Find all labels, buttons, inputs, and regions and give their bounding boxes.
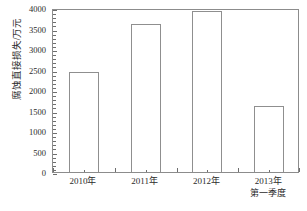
y-axis-minor-tick bbox=[53, 137, 56, 138]
y-axis-minor-tick bbox=[53, 39, 56, 40]
bar bbox=[69, 72, 99, 172]
bar bbox=[192, 11, 222, 172]
y-axis-minor-tick bbox=[53, 108, 56, 109]
x-axis-major-tick bbox=[53, 168, 54, 172]
y-axis-tick-label: 0 bbox=[16, 169, 46, 178]
y-axis-minor-tick bbox=[53, 117, 56, 118]
x-axis-tick-label: 2013年第一季度 bbox=[250, 176, 286, 199]
y-axis-minor-tick bbox=[53, 22, 56, 23]
x-axis-tick-label-main: 2011年 bbox=[131, 176, 158, 186]
y-axis-minor-tick bbox=[53, 63, 56, 64]
y-axis-minor-tick bbox=[53, 76, 56, 77]
y-axis-major-tick bbox=[53, 113, 57, 114]
y-axis-tick-label: 3000 bbox=[16, 46, 46, 55]
y-axis-minor-tick bbox=[53, 55, 56, 56]
y-axis-tick-label: 3500 bbox=[16, 25, 46, 34]
y-axis-minor-tick bbox=[53, 125, 56, 126]
x-axis-major-tick bbox=[115, 168, 116, 172]
x-axis-tick-label-main: 2010年 bbox=[69, 176, 96, 186]
y-axis-minor-tick bbox=[53, 158, 56, 159]
y-axis-tick-label: 500 bbox=[16, 148, 46, 157]
y-axis-minor-tick bbox=[53, 166, 56, 167]
x-axis-major-tick bbox=[177, 168, 178, 172]
x-axis-tick-label-sub: 第一季度 bbox=[250, 187, 286, 199]
y-axis-minor-tick bbox=[53, 121, 56, 122]
y-axis-minor-tick bbox=[53, 18, 56, 19]
y-axis-minor-tick bbox=[53, 43, 56, 44]
y-axis-minor-tick bbox=[53, 80, 56, 81]
bar bbox=[131, 24, 161, 172]
x-axis-tick-labels: 2010年2011年2012年2013年第一季度 bbox=[52, 176, 299, 210]
y-axis-minor-tick bbox=[53, 100, 56, 101]
y-axis-tick-label: 4000 bbox=[16, 5, 46, 14]
y-axis-minor-tick bbox=[53, 84, 56, 85]
y-axis-minor-tick bbox=[53, 141, 56, 142]
x-axis-major-tick bbox=[299, 168, 300, 172]
y-axis-minor-tick bbox=[53, 88, 56, 89]
x-axis-minor-tick bbox=[146, 170, 147, 173]
y-axis-minor-tick bbox=[53, 47, 56, 48]
y-axis-minor-tick bbox=[53, 149, 56, 150]
y-axis-major-tick bbox=[53, 92, 57, 93]
y-axis-tick-labels: 05001000150020002500300035004000 bbox=[16, 9, 46, 173]
y-axis-tick-label: 2500 bbox=[16, 66, 46, 75]
y-axis-minor-tick bbox=[53, 67, 56, 68]
y-axis-major-tick bbox=[53, 51, 57, 52]
x-axis-minor-tick bbox=[207, 170, 208, 173]
y-axis-major-tick bbox=[53, 72, 57, 73]
bar bbox=[254, 106, 284, 172]
y-axis-minor-tick bbox=[53, 59, 56, 60]
x-axis-tick-label-main: 2012年 bbox=[193, 176, 220, 186]
y-axis-major-tick bbox=[53, 31, 57, 32]
x-axis-tick-label: 2010年 bbox=[69, 176, 96, 187]
y-axis-minor-tick bbox=[53, 104, 56, 105]
y-axis-minor-tick bbox=[53, 96, 56, 97]
bar-chart: 腐蚀直接损失/万元 050010001500200025003000350040… bbox=[0, 0, 307, 211]
y-axis-tick-label: 1000 bbox=[16, 128, 46, 137]
y-axis-minor-tick bbox=[53, 129, 56, 130]
y-axis-minor-tick bbox=[53, 35, 56, 36]
y-axis-major-tick bbox=[53, 154, 57, 155]
y-axis-minor-tick bbox=[53, 14, 56, 15]
y-axis-major-tick bbox=[53, 10, 57, 11]
x-axis-tick-label: 2012年 bbox=[193, 176, 220, 187]
y-axis-tick-label: 2000 bbox=[16, 87, 46, 96]
x-axis-minor-tick bbox=[84, 170, 85, 173]
x-axis-tick-label-main: 2013年 bbox=[255, 176, 282, 186]
y-axis-major-tick bbox=[53, 174, 57, 175]
plot-area bbox=[52, 9, 299, 173]
x-axis-minor-tick bbox=[269, 170, 270, 173]
y-axis-minor-tick bbox=[53, 145, 56, 146]
bars-layer bbox=[53, 10, 298, 172]
y-axis-minor-tick bbox=[53, 162, 56, 163]
y-axis-tick-label: 1500 bbox=[16, 107, 46, 116]
x-axis-tick-label: 2011年 bbox=[131, 176, 158, 187]
x-axis-major-tick bbox=[238, 168, 239, 172]
y-axis-major-tick bbox=[53, 133, 57, 134]
y-axis-minor-tick bbox=[53, 26, 56, 27]
